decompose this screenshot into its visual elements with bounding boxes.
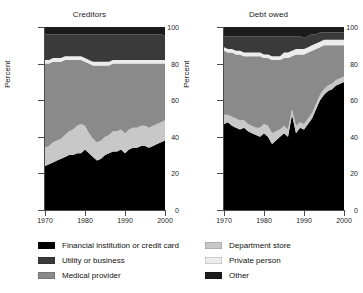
y-tick-label: 80 xyxy=(143,61,179,68)
x-tick xyxy=(344,211,345,216)
plot-area-creditors xyxy=(45,27,165,210)
x-tick xyxy=(85,211,86,216)
y-tick-label: 20 xyxy=(143,170,179,177)
legend-item: Medical provider xyxy=(38,268,179,283)
y-tick xyxy=(38,137,44,138)
x-tick xyxy=(45,211,46,216)
y-axis-label: Percent xyxy=(182,60,191,88)
legend-label: Department store xyxy=(229,241,291,250)
x-tick-label: 1970 xyxy=(25,217,65,224)
y-tick-label: 40 xyxy=(143,134,179,141)
panel-debt-owed: Debt owed Percent 020406080100 197019801… xyxy=(179,0,358,232)
x-tick xyxy=(224,211,225,216)
legend: Financial institution or credit cardUtil… xyxy=(0,238,358,286)
y-tick-label: 0 xyxy=(143,207,179,214)
x-tick-label: 2000 xyxy=(324,217,363,224)
legend-swatch xyxy=(205,257,222,264)
y-tick-label: 40 xyxy=(322,134,358,141)
plot-area-debt-owed xyxy=(224,27,344,210)
legend-item: Utility or business xyxy=(38,253,179,268)
legend-column-2: Department storePrivate personOther xyxy=(205,238,291,283)
legend-swatch xyxy=(38,242,55,249)
x-tick xyxy=(165,211,166,216)
y-tick-label: 20 xyxy=(322,170,358,177)
x-tick-label: 1990 xyxy=(105,217,145,224)
x-tick-label: 1990 xyxy=(284,217,324,224)
legend-column-1: Financial institution or credit cardUtil… xyxy=(38,238,179,283)
legend-swatch xyxy=(205,242,222,249)
legend-label: Private person xyxy=(229,256,281,265)
legend-label: Financial institution or credit card xyxy=(62,241,179,250)
legend-swatch xyxy=(38,272,55,279)
legend-swatch xyxy=(205,272,222,279)
x-tick xyxy=(264,211,265,216)
y-tick xyxy=(217,100,223,101)
y-tick-label: 60 xyxy=(143,97,179,104)
y-tick-label: 80 xyxy=(322,61,358,68)
x-tick-label: 1980 xyxy=(244,217,284,224)
legend-label: Utility or business xyxy=(62,256,125,265)
y-tick xyxy=(217,173,223,174)
y-tick-label: 100 xyxy=(322,24,358,31)
panel-title: Creditors xyxy=(0,10,179,19)
y-tick-label: 60 xyxy=(322,97,358,104)
panel-title: Debt owed xyxy=(179,10,358,19)
y-tick xyxy=(217,210,223,211)
x-tick xyxy=(125,211,126,216)
y-tick xyxy=(38,100,44,101)
y-tick xyxy=(217,27,223,28)
panel-creditors: Creditors Percent 020406080100 197019801… xyxy=(0,0,179,232)
legend-swatch xyxy=(38,257,55,264)
y-tick xyxy=(38,173,44,174)
legend-label: Other xyxy=(229,271,249,280)
stacked-area-svg xyxy=(45,27,165,210)
x-tick-label: 1980 xyxy=(65,217,105,224)
y-tick xyxy=(38,27,44,28)
stacked-area-svg xyxy=(224,27,344,210)
x-tick xyxy=(304,211,305,216)
y-axis-label: Percent xyxy=(3,60,12,88)
y-tick-label: 0 xyxy=(322,207,358,214)
y-tick xyxy=(217,64,223,65)
legend-label: Medical provider xyxy=(62,271,121,280)
y-tick xyxy=(38,210,44,211)
y-tick xyxy=(38,64,44,65)
legend-item: Financial institution or credit card xyxy=(38,238,179,253)
legend-item: Private person xyxy=(205,253,291,268)
x-tick-label: 1970 xyxy=(204,217,244,224)
y-tick-label: 100 xyxy=(143,24,179,31)
y-tick xyxy=(217,137,223,138)
legend-item: Department store xyxy=(205,238,291,253)
legend-item: Other xyxy=(205,268,291,283)
